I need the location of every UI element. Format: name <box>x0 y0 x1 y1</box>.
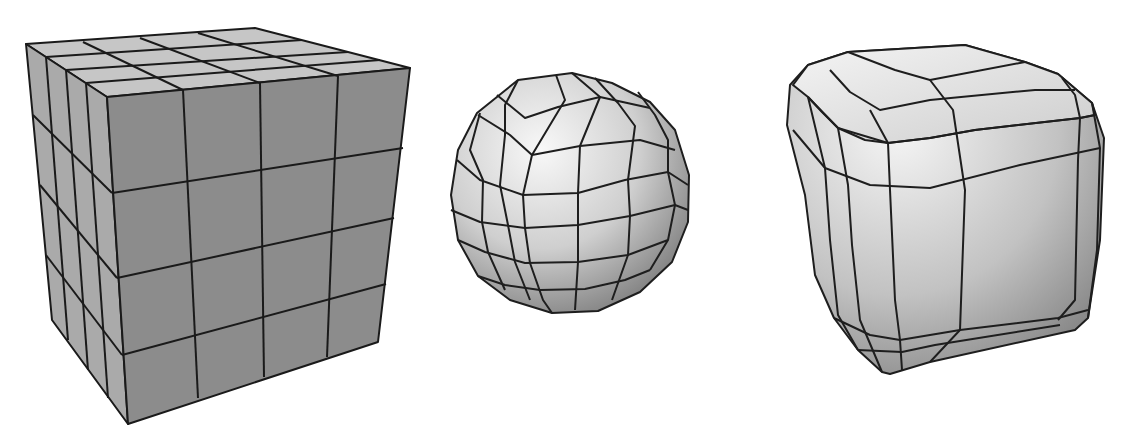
rounded-cube <box>787 45 1104 374</box>
figure-canvas <box>0 0 1133 437</box>
subdivided-cube <box>26 28 410 424</box>
models-illustration <box>0 0 1133 437</box>
spherified-cube <box>451 73 689 313</box>
